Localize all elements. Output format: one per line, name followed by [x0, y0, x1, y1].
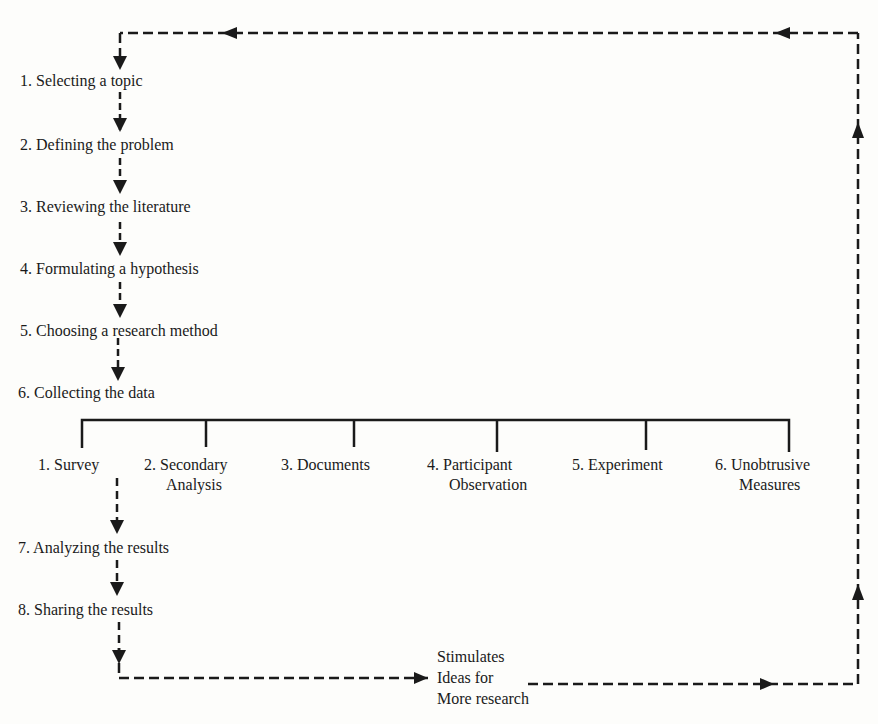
arrow-up-icon: [852, 122, 864, 138]
method-secondary-analysis: 2. Secondary Analysis: [144, 455, 228, 495]
arrow-right-icon: [414, 672, 428, 684]
method-label: 2. Secondary: [144, 455, 228, 475]
step-1: 1. Selecting a topic: [20, 70, 143, 91]
method-label-line2: Measures: [715, 475, 810, 495]
step-2: 2. Defining the problem: [20, 134, 174, 155]
method-label-line2: Observation: [427, 475, 527, 495]
figure-caption-clipped: ▬▬▬▬▬ ▬▬ ▬▬▬: [243, 716, 643, 724]
step-3: 3. Reviewing the literature: [20, 196, 191, 217]
method-label: 1. Survey: [38, 456, 99, 473]
arrow-left-icon: [222, 27, 237, 39]
feedback-line2: Ideas for: [437, 667, 529, 688]
arrow-right-icon: [760, 678, 774, 690]
method-label: 6. Unobtrusive: [715, 455, 810, 475]
arrowheads: [110, 27, 864, 690]
step-5: 5. Choosing a research method: [20, 320, 218, 341]
method-unobtrusive-measures: 6. Unobtrusive Measures: [715, 455, 810, 495]
method-label-line2: Analysis: [144, 475, 228, 495]
method-bar: [82, 420, 789, 452]
arrow-up-icon: [852, 584, 864, 600]
method-label: 4. Participant: [427, 455, 527, 475]
method-experiment: 5. Experiment: [572, 455, 663, 475]
method-label: 3. Documents: [281, 456, 370, 473]
step-8: 8. Sharing the results: [18, 599, 153, 620]
step-7: 7. Analyzing the results: [18, 537, 169, 558]
method-participant-observation: 4. Participant Observation: [427, 455, 527, 495]
method-documents: 3. Documents: [281, 455, 370, 475]
arrow-left-icon: [775, 27, 790, 39]
feedback-note: Stimulates Ideas for More research: [437, 646, 529, 709]
step-6: 6. Collecting the data: [18, 382, 155, 403]
step-4: 4. Formulating a hypothesis: [20, 258, 199, 279]
method-label: 5. Experiment: [572, 456, 663, 473]
method-survey: 1. Survey: [38, 455, 99, 475]
feedback-line3: More research: [437, 688, 529, 709]
feedback-line1: Stimulates: [437, 646, 529, 667]
